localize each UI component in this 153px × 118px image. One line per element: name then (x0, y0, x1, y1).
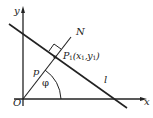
foot-point-label: P1(x1,y1) (63, 51, 99, 61)
angle-label: φ (42, 78, 49, 88)
normal-label: N (76, 27, 85, 37)
line-l (9, 24, 127, 108)
foot-coords-close: ) (96, 50, 99, 61)
foot-point-dot (53, 55, 56, 58)
right-angle-marker (49, 44, 61, 51)
foot-coords-open: (x (73, 50, 81, 61)
normal-line-diagram: y N P1(x1,y1) p φ l O x (0, 0, 153, 118)
distance-label: p (33, 67, 39, 77)
normal-line-on (23, 37, 71, 99)
y-axis-label: y (14, 6, 20, 16)
y-axis-arrow-icon (21, 6, 25, 13)
line-label: l (104, 75, 107, 85)
x-axis-label: x (144, 97, 150, 107)
origin-label: O (13, 98, 21, 108)
